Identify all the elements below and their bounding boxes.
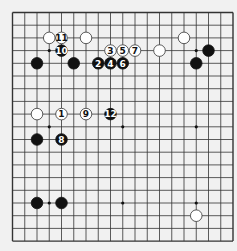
black-stone bbox=[68, 58, 80, 70]
black-stone bbox=[31, 197, 43, 209]
black-stone: 6 bbox=[117, 58, 129, 70]
black-stone: 8 bbox=[56, 134, 68, 146]
star-point bbox=[195, 49, 198, 52]
move-number: 2 bbox=[95, 59, 101, 69]
white-stone bbox=[190, 210, 202, 222]
move-number: 1 bbox=[58, 109, 64, 119]
move-number: 5 bbox=[120, 46, 126, 56]
move-number: 3 bbox=[107, 46, 113, 56]
black-stone bbox=[31, 58, 43, 70]
black-stone: 2 bbox=[92, 58, 104, 70]
white-stone: 7 bbox=[129, 45, 141, 57]
white-stone bbox=[80, 32, 92, 44]
move-number: 12 bbox=[104, 109, 117, 119]
go-board: 111035724619128 bbox=[0, 0, 237, 251]
white-stone: 5 bbox=[117, 45, 129, 57]
move-number: 4 bbox=[107, 59, 113, 69]
move-number: 7 bbox=[132, 46, 138, 56]
black-stone bbox=[190, 58, 202, 70]
white-stone bbox=[154, 45, 166, 57]
black-stone bbox=[56, 197, 68, 209]
black-stone bbox=[203, 45, 215, 57]
star-point bbox=[48, 125, 51, 128]
star-point bbox=[48, 49, 51, 52]
white-stone: 3 bbox=[105, 45, 117, 57]
black-stone: 10 bbox=[55, 45, 68, 57]
black-stone bbox=[31, 134, 43, 146]
star-point bbox=[121, 125, 124, 128]
move-number: 10 bbox=[55, 46, 68, 56]
move-number: 9 bbox=[83, 109, 89, 119]
star-point bbox=[195, 125, 198, 128]
move-number: 8 bbox=[58, 135, 64, 145]
white-stone bbox=[31, 108, 43, 120]
star-point bbox=[195, 201, 198, 204]
move-number: 11 bbox=[55, 33, 68, 43]
white-stone bbox=[43, 32, 55, 44]
black-stone: 12 bbox=[104, 108, 117, 120]
move-number: 6 bbox=[120, 59, 126, 69]
white-stone: 1 bbox=[56, 108, 68, 120]
go-board-grid: 111035724619128 bbox=[0, 0, 237, 251]
star-point bbox=[121, 201, 124, 204]
white-stone bbox=[178, 32, 190, 44]
white-stone: 11 bbox=[55, 32, 68, 44]
white-stone: 9 bbox=[80, 108, 92, 120]
black-stone: 4 bbox=[105, 58, 117, 70]
star-point bbox=[48, 201, 51, 204]
